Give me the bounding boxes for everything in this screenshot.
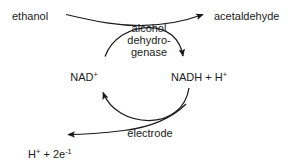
product-electron-text: + 2e (40, 148, 65, 160)
product-electron-exponent: -1 (65, 147, 72, 156)
nad-charge: + (93, 70, 97, 79)
enzyme-line-1: alcohol (127, 22, 170, 34)
nad-text: NAD (70, 71, 93, 83)
product-h-charge: + (36, 147, 40, 156)
product-h-text: H (28, 148, 36, 160)
label-enzyme-alcohol-dehydrogenase: alcohol dehydro- genase (127, 22, 170, 58)
enzyme-line-2: dehydro- (127, 34, 170, 46)
label-product-acetaldehyde: acetaldehyde (214, 10, 279, 22)
arrow-nadh-to-nad (103, 88, 189, 121)
enzyme-line-3: genase (127, 46, 170, 58)
label-substrate-ethanol: ethanol (12, 10, 48, 22)
label-electrode: electrode (127, 127, 172, 139)
nadh-text: NADH + H (171, 71, 223, 83)
label-cofactor-nadh-h-plus: NADH + H+ (171, 71, 227, 83)
label-cofactor-nad-plus: NAD+ (70, 71, 98, 83)
diagram-canvas: ethanol acetaldehyde alcohol dehydro- ge… (0, 0, 298, 166)
nadh-charge: + (223, 70, 227, 79)
label-electrode-products: H+ + 2e-1 (28, 148, 72, 160)
